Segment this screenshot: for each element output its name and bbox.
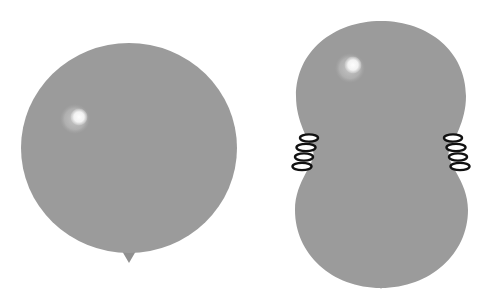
coil-ring bbox=[295, 153, 313, 160]
balloon-left-highlight bbox=[60, 104, 90, 134]
balloons-illustration: Two gray balloons illustration bbox=[0, 0, 486, 303]
coil-ring bbox=[447, 144, 466, 151]
highlight-inner-core bbox=[71, 109, 88, 126]
balloon-right-body bbox=[295, 21, 468, 288]
coil-ring bbox=[444, 134, 462, 141]
coil-ring bbox=[451, 163, 470, 170]
coil-ring bbox=[293, 163, 312, 170]
balloon-left-body bbox=[21, 43, 237, 253]
balloon-right-highlight bbox=[335, 53, 365, 83]
coil-ring bbox=[300, 134, 318, 141]
coil-ring bbox=[449, 153, 467, 160]
highlight-inner-core bbox=[345, 57, 362, 74]
coil-ring bbox=[297, 144, 316, 151]
balloon-right bbox=[293, 21, 470, 289]
illustration-canvas: Two gray balloons illustration bbox=[0, 0, 486, 303]
